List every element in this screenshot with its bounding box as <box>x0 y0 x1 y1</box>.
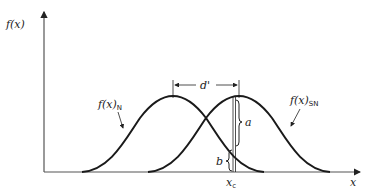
criterion-line: xc <box>226 96 236 190</box>
brace-b-label: b <box>216 155 223 168</box>
svg-text:f(x)N: f(x)N <box>97 98 122 112</box>
sdt-diagram: f(x) x d' xc a b f(x)N f(x)SN <box>0 0 376 190</box>
signal-noise-curve-label: f(x)SN <box>289 94 319 126</box>
brace-a <box>236 100 242 146</box>
axes <box>44 12 360 172</box>
d-prime-label: d' <box>200 79 210 92</box>
y-axis-label: f(x) <box>5 18 25 31</box>
d-prime-indicator: d' <box>173 79 239 98</box>
svg-text:f(x)SN: f(x)SN <box>289 94 319 108</box>
brace-a-label: a <box>245 116 252 129</box>
criterion-label: xc <box>226 176 236 190</box>
x-axis-label: x <box>350 176 357 189</box>
noise-curve-label: f(x)N <box>97 98 123 128</box>
